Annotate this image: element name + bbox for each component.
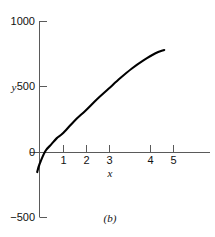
x-tick-label-5: 5: [170, 154, 176, 166]
y-tick-label-500: 500: [17, 80, 35, 92]
x-tick-label-2: 2: [83, 154, 89, 166]
y-tick-label-minus500: −500: [10, 211, 35, 223]
x-tick-label-1: 1: [60, 154, 66, 166]
data-curve-series-0: [37, 50, 164, 172]
y-tick-label-0: 0: [29, 146, 35, 158]
y-axis-title: y: [11, 81, 17, 93]
figure-panel: 1000 500 0 −500 1 2 3 4 5 y x (b): [0, 0, 215, 237]
y-tick-label-1000: 1000: [11, 15, 35, 27]
chart-canvas: 1000 500 0 −500 1 2 3 4 5 y x (b): [0, 0, 215, 237]
x-tick-label-3: 3: [106, 154, 112, 166]
x-tick-label-4: 4: [147, 154, 153, 166]
figure-caption: (b): [104, 212, 117, 225]
x-axis-title: x: [107, 167, 113, 179]
